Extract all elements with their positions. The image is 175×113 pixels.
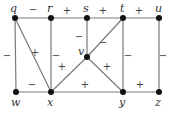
node-label-y: y <box>118 96 126 109</box>
edge-q-w <box>15 18 16 92</box>
edge-sign-y-z: + <box>136 79 144 90</box>
node-y <box>120 89 126 95</box>
edge-sign-s-v: − <box>75 31 83 42</box>
edge-sign-t-v: − <box>99 37 107 48</box>
edge-sign-q-r: − <box>29 4 37 15</box>
node-label-v: v <box>78 45 85 58</box>
node-label-s: s <box>83 2 89 15</box>
edge-sign-w-x: − <box>28 79 36 90</box>
edge-sign-q-w: − <box>3 50 11 61</box>
edge-sign-s-t: + <box>99 5 107 16</box>
node-label-q: q <box>10 2 17 15</box>
edge-sign-u-z: − <box>159 50 167 61</box>
node-label-w: w <box>11 96 21 109</box>
node-v <box>84 54 90 60</box>
node-q <box>12 15 18 21</box>
signed-graph: −+++−+−−−++−−−++ qrstuvwxyz <box>0 0 175 113</box>
node-label-x: x <box>47 96 54 109</box>
node-t <box>120 15 126 21</box>
node-label-t: t <box>120 2 125 15</box>
node-label-z: z <box>154 96 161 109</box>
edge-sign-r-x: − <box>52 50 60 61</box>
edge-sign-t-u: + <box>135 5 143 16</box>
node-label-u: u <box>155 2 162 15</box>
node-x <box>48 89 54 95</box>
edge-sign-x-y: + <box>81 79 89 90</box>
edge-sign-v-y: + <box>103 61 111 72</box>
edge-sign-q-x: + <box>31 47 39 58</box>
edge-sign-x-v: + <box>58 61 66 72</box>
edge-sign-t-y: − <box>124 50 132 61</box>
edge-sign-r-s: + <box>63 5 71 16</box>
node-u <box>156 15 162 21</box>
node-s <box>84 15 90 21</box>
node-w <box>13 89 19 95</box>
node-r <box>48 15 54 21</box>
node-z <box>156 89 162 95</box>
node-label-r: r <box>47 2 53 15</box>
